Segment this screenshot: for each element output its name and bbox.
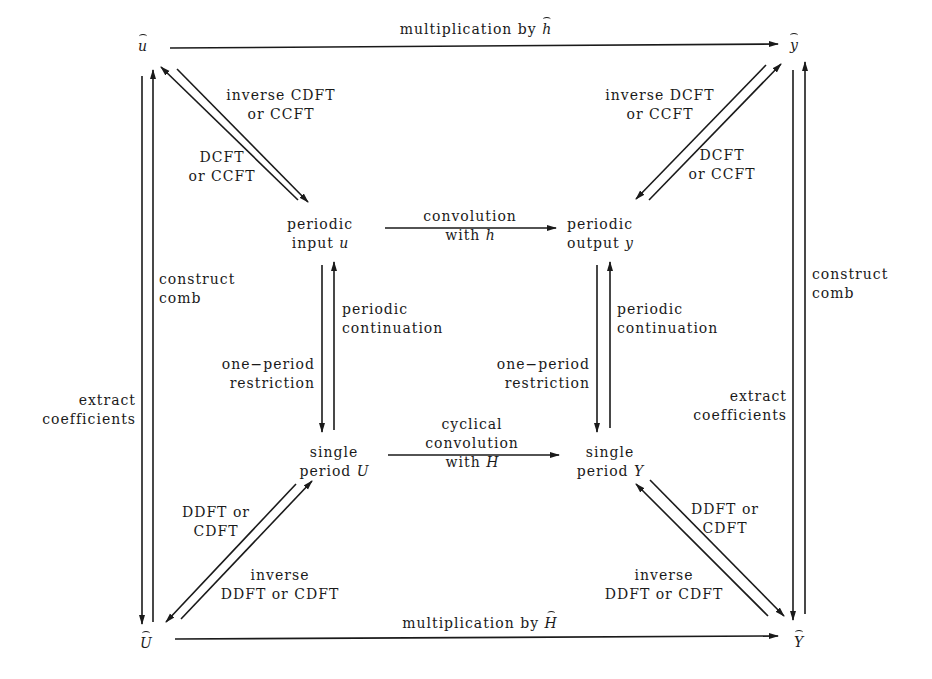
label-left-construct-comb: construct comb — [159, 270, 235, 308]
node-line: period — [577, 463, 629, 479]
edge-text: one−period — [222, 355, 315, 374]
label-bl-ddft: DDFT or CDFT — [182, 503, 250, 541]
edge-text: periodic — [342, 300, 443, 319]
edge-text: inverse DCFT — [605, 86, 714, 105]
label-left-one-period-restriction: one−period restriction — [222, 355, 315, 393]
edge-text: or CCFT — [188, 167, 255, 186]
node-line: period — [299, 463, 351, 479]
node-single-period-U: single period U — [299, 443, 368, 481]
label-left-periodic-continuation: periodic continuation — [342, 300, 443, 338]
label-right-one-period-restriction: one−period restriction — [497, 355, 590, 393]
U-hat-symbol: U — [140, 634, 153, 653]
node-var: Y — [634, 463, 643, 479]
edge-text: restriction — [497, 374, 590, 393]
edge-text: or CCFT — [688, 165, 755, 184]
edge-text: coefficients — [42, 410, 136, 429]
edge-var: h — [486, 227, 495, 243]
edge-text: DDFT or CDFT — [221, 585, 340, 604]
edge-text: inverse CDFT — [226, 86, 335, 105]
edge-var: h — [542, 20, 552, 39]
edge-text: construct — [159, 270, 235, 289]
diagram-canvas — [0, 0, 932, 679]
node-var: U — [357, 463, 369, 479]
label-top-multiplication: multiplication by h — [400, 20, 552, 39]
edge-var: H — [545, 614, 558, 633]
edge-text: extract — [42, 391, 136, 410]
edge-text: DDFT or CDFT — [605, 585, 724, 604]
edge-text: continuation — [342, 319, 443, 338]
arrow-bottom-multiplication — [175, 636, 778, 639]
label-tr-dcft: DCFT or CCFT — [688, 146, 755, 184]
edge-text: DDFT or — [691, 500, 759, 519]
label-right-construct-comb: construct comb — [812, 265, 888, 303]
node-line: input — [292, 235, 334, 251]
edge-text: with — [446, 454, 481, 470]
label-cyclical-convolution: cyclical convolution with H — [425, 415, 519, 472]
y-hat-symbol: y — [790, 36, 799, 55]
edge-text: with — [445, 227, 480, 243]
label-convolution: convolution with h — [423, 207, 517, 245]
label-right-periodic-continuation: periodic continuation — [617, 300, 718, 338]
edge-text: CDFT — [182, 522, 250, 541]
node-Y-hat: Y — [794, 633, 804, 652]
node-U-hat: U — [140, 634, 153, 653]
edge-text: restriction — [222, 374, 315, 393]
edge-text: convolution — [425, 434, 519, 453]
edge-text: one−period — [497, 355, 590, 374]
node-line: single — [577, 443, 644, 462]
edge-text: cyclical — [425, 415, 519, 434]
node-var: y — [625, 235, 633, 251]
node-line: output — [567, 235, 620, 251]
node-single-period-Y: single period Y — [577, 443, 644, 481]
arrow-top-multiplication — [170, 44, 778, 48]
edge-text: inverse — [221, 566, 340, 585]
node-periodic-input: periodic input u — [287, 215, 353, 253]
edge-text: CDFT — [691, 519, 759, 538]
edge-text: DDFT or — [182, 503, 250, 522]
edge-text: continuation — [617, 319, 718, 338]
label-bottom-multiplication: multiplication by H — [402, 614, 558, 633]
edge-text: comb — [812, 284, 888, 303]
edge-text: convolution — [423, 207, 517, 226]
label-tl-inverse-cdft: inverse CDFT or CCFT — [226, 86, 335, 124]
edge-text: inverse — [605, 566, 724, 585]
label-br-ddft: DDFT or CDFT — [691, 500, 759, 538]
node-periodic-output: periodic output y — [567, 215, 633, 253]
node-line: periodic — [287, 215, 353, 234]
edge-text: DCFT — [188, 148, 255, 167]
label-br-inverse-ddft: inverse DDFT or CDFT — [605, 566, 724, 604]
edge-text: coefficients — [693, 406, 787, 425]
node-y-hat: y — [790, 36, 799, 55]
Y-hat-symbol: Y — [794, 633, 804, 652]
node-line: periodic — [567, 215, 633, 234]
edge-text: DCFT — [688, 146, 755, 165]
edge-text: comb — [159, 289, 235, 308]
label-tl-dcft: DCFT or CCFT — [188, 148, 255, 186]
label-tr-inverse-dcft: inverse DCFT or CCFT — [605, 86, 714, 124]
label-right-extract-coefficients: extract coefficients — [693, 387, 787, 425]
node-var: u — [339, 235, 348, 251]
edge-text: multiplication by — [402, 615, 539, 631]
label-left-extract-coefficients: extract coefficients — [42, 391, 136, 429]
label-bl-inverse-ddft: inverse DDFT or CDFT — [221, 566, 340, 604]
edge-text: construct — [812, 265, 888, 284]
u-hat-symbol: u — [138, 37, 148, 56]
edge-var: H — [486, 454, 498, 470]
edge-text: multiplication by — [400, 21, 537, 37]
edge-text: or CCFT — [226, 105, 335, 124]
node-line: single — [299, 443, 368, 462]
edge-text: periodic — [617, 300, 718, 319]
edge-text: extract — [693, 387, 787, 406]
edge-text: or CCFT — [605, 105, 714, 124]
node-u-hat: u — [138, 37, 148, 56]
